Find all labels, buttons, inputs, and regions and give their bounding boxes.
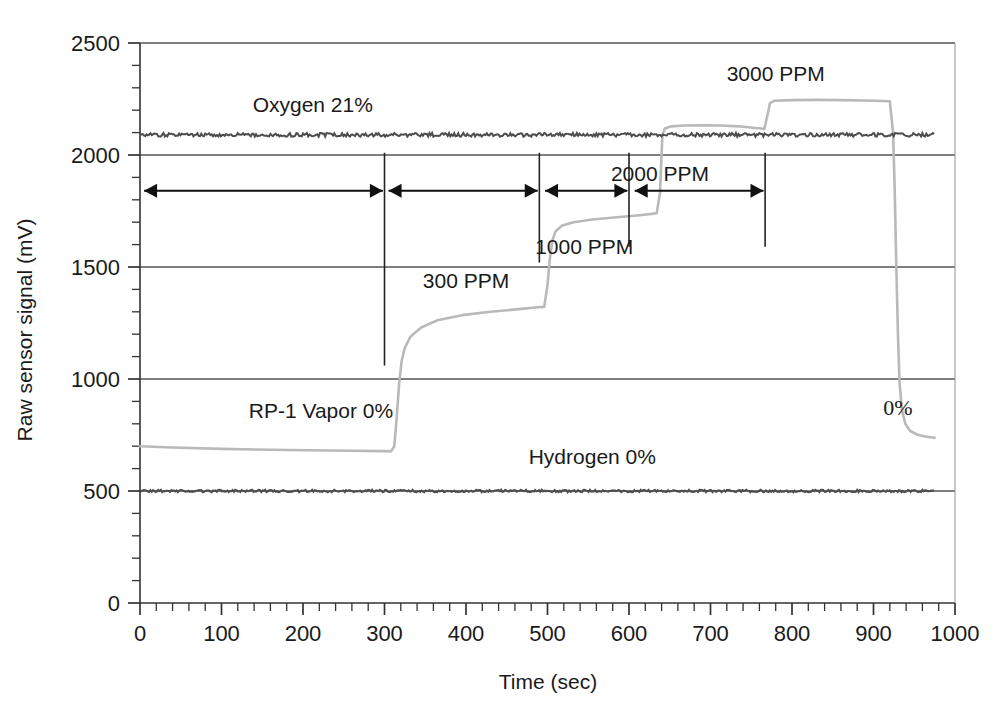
oxygen-label: Oxygen 21%: [253, 93, 373, 116]
x-tick-label-700: 700: [692, 621, 729, 646]
y-tick-label-2000: 2000: [71, 143, 120, 168]
chart-root: 05001000150020002500 0100200300400500600…: [0, 0, 1007, 709]
y-tick-label-0: 0: [108, 591, 120, 616]
x-tick-label-100: 100: [203, 621, 240, 646]
x-tick-label-300: 300: [366, 621, 403, 646]
x-tick-label-1000: 1000: [931, 621, 980, 646]
x-tick-label-800: 800: [774, 621, 811, 646]
y-tick-label-1500: 1500: [71, 255, 120, 280]
y-tick-label-500: 500: [83, 479, 120, 504]
rp1-label: RP-1 Vapor 0%: [249, 399, 393, 422]
zero-percent-label: 0%: [883, 395, 912, 420]
x-tick-label-400: 400: [448, 621, 485, 646]
ppm-300-label: 300 PPM: [423, 269, 509, 292]
x-tick-label-500: 500: [529, 621, 566, 646]
ppm-1000-label: 1000 PPM: [535, 235, 633, 258]
y-tick-label-2500: 2500: [71, 31, 120, 56]
x-tick-label-600: 600: [611, 621, 648, 646]
y-axis-title: Raw sensor signal (mV): [13, 219, 36, 442]
y-tick-label-1000: 1000: [71, 367, 120, 392]
sensor-response-chart: 05001000150020002500 0100200300400500600…: [0, 0, 1007, 709]
ppm-3000-label: 3000 PPM: [727, 62, 825, 85]
x-tick-label-0: 0: [134, 621, 146, 646]
x-axis-title: Time (sec): [499, 670, 597, 693]
hydrogen-label: Hydrogen 0%: [529, 445, 656, 468]
ppm-2000-label: 2000 PPM: [611, 162, 709, 185]
x-tick-label-200: 200: [285, 621, 322, 646]
x-tick-label-900: 900: [855, 621, 892, 646]
